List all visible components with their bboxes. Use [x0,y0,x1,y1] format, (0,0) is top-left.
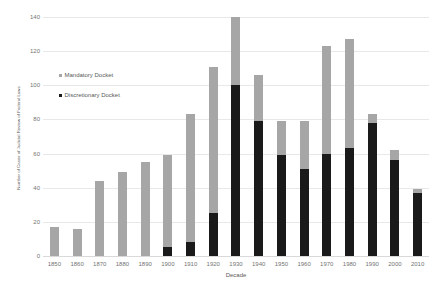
x-tick-label: 1930 [225,259,248,271]
bar-slot [293,17,316,256]
bar-segment-mandatory[interactable] [277,121,286,155]
bar-segment-discretionary[interactable] [390,160,399,256]
x-tick-label: 1980 [338,259,361,271]
x-tick-label: 1860 [66,259,89,271]
x-tick-label: 1920 [202,259,225,271]
bar-segment-mandatory[interactable] [186,114,195,242]
bar-segment-mandatory[interactable] [95,181,104,256]
bar-stack[interactable] [322,46,331,256]
y-tick-label: 80 [18,116,40,123]
bar-slot [406,17,429,256]
bar-stack[interactable] [413,189,422,256]
bar-slot [111,17,134,256]
discretionary-swatch-icon [59,94,62,97]
x-tick-label: 1910 [179,259,202,271]
bar-segment-discretionary[interactable] [322,154,331,256]
x-tick-label: 1990 [361,259,384,271]
chart-legend: Mandatory Docket Discretionary Docket [59,70,179,110]
bar-segment-discretionary[interactable] [300,169,309,256]
y-tick-label: 100 [18,82,40,89]
x-axis-title: Decade [43,272,429,278]
bar-segment-discretionary[interactable] [277,155,286,256]
x-tick-label: 1900 [157,259,180,271]
bar-stack[interactable] [231,17,240,256]
bar-stack[interactable] [50,227,59,256]
bar-slot [338,17,361,256]
legend-item-discretionary[interactable]: Discretionary Docket [59,90,179,100]
bar-segment-discretionary[interactable] [254,121,263,256]
x-tick-label: 2010 [406,259,429,271]
bar-stack[interactable] [95,181,104,256]
bar-stack[interactable] [277,121,286,256]
bar-slot [43,17,66,256]
bar-segment-discretionary[interactable] [368,123,377,256]
x-tick-label: 1890 [134,259,157,271]
bar-slot [202,17,225,256]
x-tick-label: 1850 [43,259,66,271]
bar-segment-mandatory[interactable] [118,172,127,256]
bar-stack[interactable] [368,114,377,256]
y-tick-label: 60 [18,150,40,157]
x-tick-label: 1880 [111,259,134,271]
bar-segment-mandatory[interactable] [390,150,399,160]
bar-stack[interactable] [390,150,399,256]
bar-slot [361,17,384,256]
bar-stack[interactable] [186,114,195,256]
y-tick-label: 0 [18,253,40,260]
bar-stack[interactable] [300,121,309,256]
bar-segment-mandatory[interactable] [141,162,150,256]
bar-stack[interactable] [118,172,127,256]
legend-label-mandatory: Mandatory Docket [65,71,114,79]
bar-segment-discretionary[interactable] [231,85,240,256]
bar-segment-discretionary[interactable] [209,213,218,256]
legend-item-mandatory[interactable]: Mandatory Docket [59,70,179,80]
bar-segment-mandatory[interactable] [231,17,240,85]
y-tick-label: 140 [18,14,40,21]
bar-slot [247,17,270,256]
bar-slot [225,17,248,256]
y-tick-label: 120 [18,48,40,55]
x-tick-label: 1870 [88,259,111,271]
bar-segment-mandatory[interactable] [300,121,309,169]
bar-segment-mandatory[interactable] [322,46,331,154]
bar-slot [66,17,89,256]
y-tick-label: 40 [18,184,40,191]
bar-segment-mandatory[interactable] [254,75,263,121]
gridline [43,256,429,257]
x-tick-label: 1960 [293,259,316,271]
bar-slot [315,17,338,256]
mandatory-swatch-icon [59,74,62,77]
bar-stack[interactable] [345,39,354,256]
x-tick-label: 1950 [270,259,293,271]
bar-stack[interactable] [254,75,263,256]
bar-segment-mandatory[interactable] [345,39,354,148]
bar-segment-discretionary[interactable] [345,148,354,256]
bar-segment-mandatory[interactable] [209,67,218,214]
x-tick-label: 1940 [247,259,270,271]
bar-segment-mandatory[interactable] [73,229,82,256]
bar-segment-discretionary[interactable] [163,247,172,256]
x-tick-label: 1970 [315,259,338,271]
bar-segment-mandatory[interactable] [163,155,172,247]
bar-slot [134,17,157,256]
bar-segment-mandatory[interactable] [368,114,377,123]
bar-slot [270,17,293,256]
plot-area [43,17,429,256]
chart-canvas: Number of Cases of Judicial Review of Fe… [0,0,435,293]
x-axis-tick-labels: 1850186018701880189019001910192019301940… [43,259,429,271]
bar-stack[interactable] [73,229,82,256]
y-axis-tick-labels: 020406080100120140 [0,0,40,293]
y-tick-label: 20 [18,218,40,225]
bar-slot [88,17,111,256]
bar-slot [157,17,180,256]
bar-segment-mandatory[interactable] [50,227,59,256]
bars-layer [43,17,429,256]
bar-stack[interactable] [141,162,150,256]
bar-segment-discretionary[interactable] [186,242,195,256]
bar-stack[interactable] [209,67,218,256]
bar-segment-discretionary[interactable] [413,193,422,256]
bar-slot [384,17,407,256]
legend-label-discretionary: Discretionary Docket [65,91,120,99]
bar-stack[interactable] [163,155,172,256]
bar-slot [179,17,202,256]
